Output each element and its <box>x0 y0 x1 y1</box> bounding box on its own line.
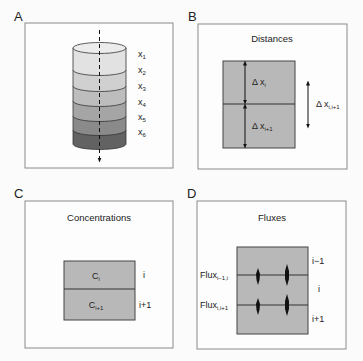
panel-d-title: Fluxes <box>258 212 286 223</box>
panel-a-letter: A <box>14 9 23 24</box>
panel-d-letter: D <box>187 186 196 201</box>
panel-c: C Concentrations Ci Ci+1 i i+1 <box>14 186 173 348</box>
panel-a: A x1 x2 x3 x4 x5 x6 <box>14 9 173 168</box>
flux-index-i: i <box>318 284 320 294</box>
concentration-index-i1: i+1 <box>139 300 151 310</box>
panel-b-letter: B <box>188 9 197 24</box>
concentration-index-i: i <box>143 270 145 280</box>
panel-c-letter: C <box>14 186 23 201</box>
figure-canvas: A x1 x2 x3 x4 x5 x6 B Distances <box>0 0 363 361</box>
concentration-box <box>64 261 135 320</box>
panel-c-title: Concentrations <box>67 212 131 223</box>
panel-d: D Fluxes Fluxi−1,i Fluxi,i+1 i−1 i i+1 <box>187 186 346 349</box>
flux-index-ip1: i+1 <box>312 314 324 324</box>
delta-i-label: Δ xi <box>252 77 266 88</box>
layered-cylinder <box>73 30 126 160</box>
flux-index-im1: i−1 <box>312 256 324 266</box>
panel-b: B Distances Δ xi Δ xi+1 Δ xi,i+1 <box>188 9 347 169</box>
flux-box <box>237 247 308 334</box>
panel-b-title: Distances <box>251 33 293 44</box>
